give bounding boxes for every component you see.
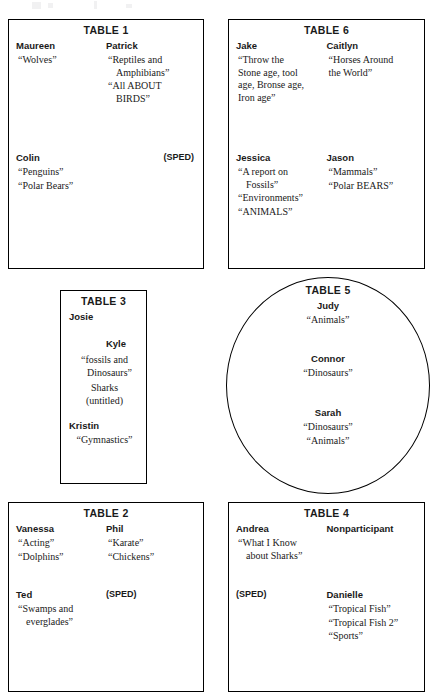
student-topic: “Mammals”: [327, 166, 418, 179]
table-title: TABLE 2: [9, 507, 203, 519]
sped-label: (SPED): [236, 588, 323, 601]
student-group: Connor “Dinosaurs”: [227, 352, 429, 380]
student-name: Kyle: [69, 337, 138, 350]
table-columns: Jake “Throw the Stone age, tool age, Bro…: [229, 39, 424, 219]
student-name: Ted: [16, 588, 102, 601]
table-column-left: Vanessa “Acting” “Dolphins” Ted “Swamps …: [16, 522, 106, 629]
table-column-right: Caitlyn “Horses Around the World” Jason …: [327, 39, 418, 193]
student-group: Sarah “Dinosaurs” “Animals”: [227, 406, 429, 447]
nonparticipant-label: Nonparticipant: [327, 522, 418, 535]
table-title: TABLE 5: [227, 284, 429, 296]
student-topic: “Wolves”: [16, 54, 102, 67]
student-name: Josie: [69, 310, 138, 323]
student-name: Caitlyn: [327, 39, 418, 52]
table-card-table-6[interactable]: TABLE 6 Jake “Throw the Stone age, tool …: [228, 19, 425, 269]
student-name: Maureen: [16, 39, 102, 52]
table-column-left: Andrea “What I Know about Sharks” (SPED): [236, 522, 327, 603]
table-card-table-3[interactable]: TABLE 3 Josie Kyle “fossils and Dinosaur…: [60, 290, 147, 484]
student-name: Judy: [227, 299, 429, 312]
student-topic: “Tropical Fish 2”: [327, 617, 418, 630]
student-group: Andrea “What I Know about Sharks”: [236, 522, 323, 588]
student-topic: “Acting”: [16, 537, 102, 550]
student-group: Kyle “fossils and Dinosaurs” Sharks (unt…: [69, 337, 138, 407]
student-topic: “Dinosaurs”: [227, 421, 429, 434]
student-group: Jessica “A report on Fossils” “Environme…: [236, 151, 323, 218]
student-topic: “fossils and Dinosaurs”: [69, 354, 138, 379]
student-topic: “Penguins”: [16, 166, 102, 179]
table-title: TABLE 1: [9, 24, 203, 36]
table-body: Josie Kyle “fossils and Dinosaurs” Shark…: [61, 310, 146, 447]
student-name: Jessica: [236, 151, 323, 164]
table-title: TABLE 6: [229, 24, 424, 36]
student-name: Colin: [16, 151, 102, 164]
student-group: (SPED): [106, 151, 196, 164]
table-card-table-5[interactable]: TABLE 5 Judy “Animals” Connor “Dinosaurs…: [226, 277, 430, 494]
student-name: Patrick: [106, 39, 196, 52]
table-card-table-4[interactable]: TABLE 4 Andrea “What I Know about Sharks…: [228, 502, 425, 692]
student-topic: “Polar Bears”: [16, 180, 102, 193]
student-name: Andrea: [236, 522, 323, 535]
table-card-table-1[interactable]: TABLE 1 Maureen “Wolves” Colin “Penguins…: [8, 19, 204, 269]
student-topic: “Dolphins”: [16, 551, 102, 564]
student-group: Danielle “Tropical Fish” “Tropical Fish …: [327, 588, 418, 643]
student-topic: “All ABOUT BIRDS”: [106, 80, 196, 105]
student-topic: “Dinosaurs”: [227, 367, 429, 380]
student-topic: “Chickens”: [106, 551, 196, 564]
student-group: Ted “Swamps and everglades”: [16, 588, 102, 628]
student-group: (SPED): [106, 588, 196, 601]
student-topic: Sharks (untitled): [69, 382, 138, 407]
student-name: Jake: [236, 39, 323, 52]
student-group: Kristin “Gymnastics”: [69, 419, 138, 447]
table-column-right: Nonparticipant Danielle “Tropical Fish” …: [327, 522, 418, 644]
table-column-left: Jake “Throw the Stone age, tool age, Bro…: [236, 39, 327, 219]
student-group: Caitlyn “Horses Around the World”: [327, 39, 418, 151]
student-topic: “Animals”: [227, 314, 429, 327]
student-name: Vanessa: [16, 522, 102, 535]
student-topic: “A report on Fossils”: [236, 166, 323, 191]
sped-label: (SPED): [106, 588, 196, 601]
student-topic: “ANIMALS”: [236, 206, 323, 219]
table-card-table-2[interactable]: TABLE 2 Vanessa “Acting” “Dolphins” Ted …: [8, 502, 204, 692]
table-columns: Vanessa “Acting” “Dolphins” Ted “Swamps …: [9, 522, 203, 629]
student-group: Jason “Mammals” “Polar BEARS”: [327, 151, 418, 192]
student-group: Josie: [69, 310, 138, 323]
student-topic: “Karate”: [106, 537, 196, 550]
student-topic: “Reptiles and Amphibians”: [106, 54, 196, 79]
scan-artifacts: [0, 0, 436, 14]
student-topic: “Throw the Stone age, tool age, Bronse a…: [236, 54, 323, 104]
student-name: Danielle: [327, 588, 418, 601]
student-topic: “Animals”: [227, 435, 429, 448]
table-title: TABLE 3: [61, 295, 146, 307]
table-columns: Maureen “Wolves” Colin “Penguins” “Polar…: [9, 39, 203, 193]
student-topic: “Gymnastics”: [69, 434, 138, 447]
student-name: Jason: [327, 151, 418, 164]
student-name: Connor: [227, 352, 429, 365]
student-topic: “What I Know about Sharks”: [236, 537, 323, 562]
student-group: Colin “Penguins” “Polar Bears”: [16, 151, 102, 192]
student-group: Patrick “Reptiles and Amphibians” “All A…: [106, 39, 196, 151]
table-columns: Andrea “What I Know about Sharks” (SPED)…: [229, 522, 424, 644]
student-group: Jake “Throw the Stone age, tool age, Bro…: [236, 39, 323, 151]
student-name: Kristin: [69, 419, 138, 432]
student-topic: “Tropical Fish”: [327, 603, 418, 616]
table-column-right: Patrick “Reptiles and Amphibians” “All A…: [106, 39, 196, 166]
table-title: TABLE 4: [229, 507, 424, 519]
student-topic: “Sports”: [327, 630, 418, 643]
student-group: Judy “Animals”: [227, 299, 429, 327]
student-topic: “Swamps and everglades”: [16, 603, 102, 628]
student-group: Phil “Karate” “Chickens”: [106, 522, 196, 588]
sped-label: (SPED): [106, 151, 196, 164]
student-topic: “Environments”: [236, 192, 323, 205]
student-topic: “Horses Around the World”: [327, 54, 418, 79]
student-group: (SPED): [236, 588, 323, 601]
student-name: Sarah: [227, 406, 429, 419]
student-topic: “Polar BEARS”: [327, 180, 418, 193]
student-group: Vanessa “Acting” “Dolphins”: [16, 522, 102, 588]
student-name: Phil: [106, 522, 196, 535]
student-group: Maureen “Wolves”: [16, 39, 102, 151]
student-group: Nonparticipant: [327, 522, 418, 588]
table-column-right: Phil “Karate” “Chickens” (SPED): [106, 522, 196, 603]
table-column-left: Maureen “Wolves” Colin “Penguins” “Polar…: [16, 39, 106, 193]
